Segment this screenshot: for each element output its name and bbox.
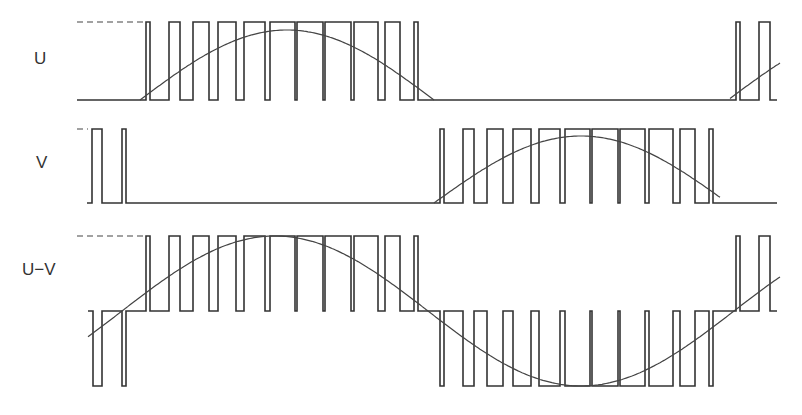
waveform-row-u-minus-v: U−V — [22, 236, 780, 386]
fundamental-sine-v — [434, 136, 720, 203]
row-label-u-minus-v: U−V — [22, 260, 56, 279]
row-label-v: V — [36, 153, 48, 172]
pwm-signal-u — [77, 22, 777, 100]
waveform-row-u: U — [34, 22, 780, 100]
waveform-row-v: V — [36, 129, 777, 203]
row-label-u: U — [34, 49, 46, 68]
pwm-signal-u-minus-v — [88, 236, 777, 386]
pwm-waveform-diagram: U V U−V — [0, 0, 802, 415]
